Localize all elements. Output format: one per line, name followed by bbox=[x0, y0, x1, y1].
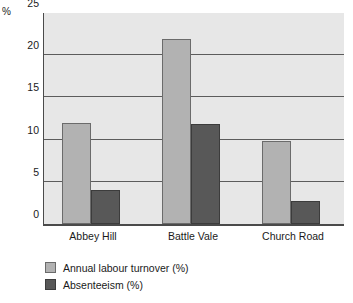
bar bbox=[262, 141, 291, 224]
x-axis-line bbox=[43, 224, 344, 226]
legend-swatch-icon bbox=[45, 279, 56, 290]
y-axis-tick-label: 10 bbox=[5, 125, 39, 135]
x-axis-category-label: Church Road bbox=[243, 229, 343, 243]
y-axis-tick-labels: 0510152025 bbox=[0, 13, 39, 224]
y-axis-tick-label: 15 bbox=[5, 82, 39, 92]
legend-label: Annual labour turnover (%) bbox=[63, 262, 188, 274]
plot-area bbox=[43, 13, 344, 224]
legend-item[interactable]: Absenteeism (%) bbox=[45, 276, 188, 293]
bar bbox=[91, 190, 120, 224]
bar bbox=[291, 201, 320, 224]
y-axis-tick-label: 25 bbox=[5, 0, 39, 8]
x-axis-category-labels: Abbey HillBattle ValeChurch Road bbox=[43, 229, 344, 245]
bar bbox=[62, 123, 91, 224]
chart-legend: Annual labour turnover (%)Absenteeism (%… bbox=[45, 259, 188, 293]
x-axis-category-label: Abbey Hill bbox=[43, 229, 143, 243]
bar-chart: % 0510152025 Abbey HillBattle ValeChurch… bbox=[0, 0, 353, 303]
x-axis-category-label: Battle Vale bbox=[143, 229, 243, 243]
legend-swatch-icon bbox=[45, 262, 56, 273]
y-axis-tick-label: 20 bbox=[5, 40, 39, 50]
bar bbox=[191, 124, 220, 224]
legend-item[interactable]: Annual labour turnover (%) bbox=[45, 259, 188, 276]
gridline bbox=[44, 96, 344, 97]
bar bbox=[162, 39, 191, 224]
y-axis-tick-label: 0 bbox=[5, 209, 39, 219]
y-axis-tick-label: 5 bbox=[5, 167, 39, 177]
gridline bbox=[44, 54, 344, 55]
legend-label: Absenteeism (%) bbox=[63, 279, 143, 291]
